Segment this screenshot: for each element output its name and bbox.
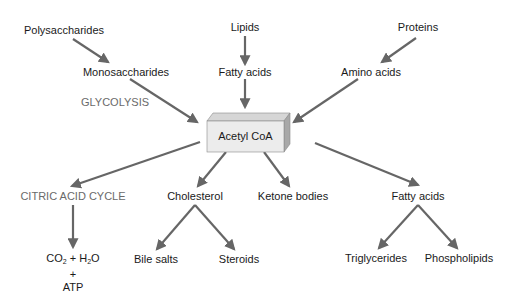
label-lipids: Lipids <box>231 21 260 34</box>
label-proteins: Proteins <box>398 21 438 34</box>
label-triglycerides: Triglycerides <box>345 252 407 265</box>
label-glycolysis: GLYCOLYSIS <box>81 96 149 109</box>
label-cholesterol: Cholesterol <box>167 190 223 203</box>
label-fatty-acids-in: Fatty acids <box>218 66 271 79</box>
acetyl-coa-label: Acetyl CoA <box>207 130 284 143</box>
o-text: O <box>91 252 100 264</box>
co2-h2o-atp-product: CO2 + H2O + ATP <box>46 252 99 294</box>
label-fatty-acids-out: Fatty acids <box>391 190 444 203</box>
co2-text: CO <box>46 252 63 264</box>
plus-h-text: + H <box>67 252 87 264</box>
label-amino-acids: Amino acids <box>341 66 401 79</box>
label-monosaccharides: Monosaccharides <box>83 66 169 79</box>
label-citric-acid-cycle: CITRIC ACID CYCLE <box>20 190 125 203</box>
label-polysaccharides: Polysaccharides <box>24 24 104 37</box>
label-ketone-bodies: Ketone bodies <box>258 190 328 203</box>
label-phospholipids: Phospholipids <box>425 252 494 265</box>
atp-text: ATP <box>46 281 99 294</box>
plus-text: + <box>46 268 99 281</box>
label-steroids: Steroids <box>219 253 259 266</box>
label-bile-salts: Bile salts <box>134 253 178 266</box>
